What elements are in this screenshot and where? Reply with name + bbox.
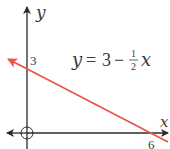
equation-lhs: y xyxy=(71,49,83,70)
x-axis-label: x xyxy=(160,113,169,131)
equation-var: x xyxy=(141,49,151,70)
equation-minus: − xyxy=(114,50,124,70)
coordinate-graph: y x 3 6 y = 3 − 1 2 x xyxy=(0,0,170,149)
equation-label: y = 3 − 1 2 x xyxy=(71,48,151,72)
x-intercept-label: 6 xyxy=(148,137,155,149)
equation-constant: 3 xyxy=(102,50,111,70)
equation-frac-den: 2 xyxy=(131,61,136,72)
y-axis-label: y xyxy=(35,2,46,22)
equation-equals: = xyxy=(86,50,96,70)
y-intercept-label: 3 xyxy=(30,53,37,68)
equation-frac-num: 1 xyxy=(131,48,136,59)
